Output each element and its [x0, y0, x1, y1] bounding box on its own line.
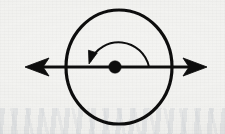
center-point-dot — [109, 61, 121, 73]
figure-canvas — [0, 0, 225, 134]
rotation-arrowhead-icon — [88, 50, 97, 64]
rotation-diagram — [0, 0, 225, 134]
